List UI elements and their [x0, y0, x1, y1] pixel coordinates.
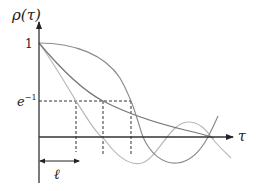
- y-tick-one: 1: [25, 37, 33, 51]
- length-label: ℓ: [54, 166, 60, 182]
- correlation-diagram: ρ(τ) 1 e−1 τ ℓ: [0, 0, 258, 191]
- y-tick-einv: e−1: [17, 93, 37, 109]
- y-tick-einv-exp: −1: [25, 93, 37, 102]
- x-axis-label: τ: [238, 128, 246, 144]
- curve-gaussian: [39, 43, 218, 163]
- y-axis-label: ρ(τ): [11, 6, 41, 24]
